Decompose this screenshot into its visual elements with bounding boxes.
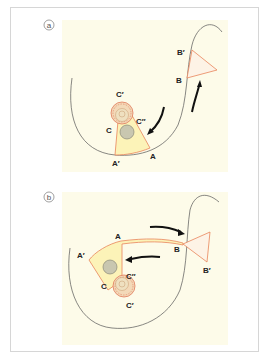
point-b-prime-label: B′ [177,48,185,57]
panel-a-label: a [44,20,54,30]
point-c-double-prime-label: C″ [126,272,136,281]
point-c-prime-label: C′ [126,301,134,310]
areola-inner-a [116,109,129,122]
point-a-prime-label: A′ [112,159,120,168]
panel-b-label: b [44,192,54,202]
diagram-canvas: a A′ A C C′ C″ B B′ b [0,0,266,359]
panel-a-label-text: a [47,21,52,30]
tumor-a [120,125,134,139]
point-b-label: B [176,76,182,85]
point-c-label: C [106,126,112,135]
point-b-label: B [174,245,180,254]
tumor-b [103,260,117,274]
point-c-label: C [101,282,107,291]
panel-a: a A′ A C C′ C″ B B′ [44,20,228,172]
point-a-prime-label: A′ [77,251,85,260]
point-b-prime-label: B′ [203,266,211,275]
point-c-prime-label: C′ [116,90,124,99]
point-a-label: A [115,232,121,241]
panel-b: b A′ A C C″ C′ B B′ [44,192,228,345]
point-c-double-prime-label: C″ [136,117,146,126]
point-a-label: A [150,152,156,161]
panel-b-label-text: b [47,193,52,202]
